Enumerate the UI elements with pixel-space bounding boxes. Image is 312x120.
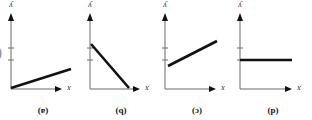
- y-axis-label: y: [88, 1, 93, 10]
- rotated-sheet: (d) x y (c): [0, 0, 312, 120]
- panel-d: (d) x y: [234, 0, 312, 120]
- descending-diagonal-line: [91, 44, 129, 88]
- figure-canvas: (d) x y (c): [0, 0, 312, 120]
- y-axis-arrowhead: [162, 13, 168, 21]
- x-axis-arrowhead: [55, 86, 62, 92]
- y-axis-arrowhead: [8, 13, 14, 21]
- ascending-diagonal-line: [11, 69, 71, 88]
- panel-d-plot: x y: [234, 0, 312, 120]
- panel-a: (a) x y: [0, 0, 82, 120]
- y-axis-label: y: [238, 1, 243, 10]
- y-axis-arrowhead: [87, 13, 93, 21]
- inclined-partial-line: [168, 41, 217, 66]
- y-axis-label: y: [163, 1, 168, 10]
- page-edge-artifact: ): [0, 44, 2, 61]
- panel-b-plot: x y: [82, 0, 160, 120]
- x-axis-arrowhead: [285, 86, 292, 92]
- panel-b: (b) x y: [82, 0, 160, 120]
- panel-c-plot: x y: [158, 0, 236, 120]
- panel-c: (c) x y: [158, 0, 236, 120]
- y-axis-label: y: [9, 1, 14, 10]
- x-axis-arrowhead: [209, 86, 216, 92]
- panel-a-plot: x y: [0, 0, 82, 120]
- x-axis-label: x: [67, 84, 72, 93]
- x-axis-label: x: [221, 84, 226, 93]
- y-axis-arrowhead: [237, 13, 243, 21]
- x-axis-label: x: [145, 84, 150, 93]
- x-axis-arrowhead: [133, 86, 140, 92]
- x-axis-label: x: [297, 84, 302, 93]
